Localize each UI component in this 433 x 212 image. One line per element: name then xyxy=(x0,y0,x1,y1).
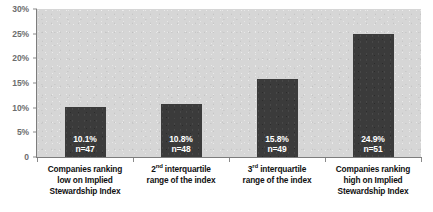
bar-value-label: 24.9% xyxy=(361,134,385,144)
y-axis-tick-label: 0 xyxy=(24,152,29,162)
x-axis-tick-mark xyxy=(421,158,422,162)
y-axis-tick-label: 15% xyxy=(12,78,29,88)
x-axis-category-labels: Companies rankinglow on ImpliedStewardsh… xyxy=(37,164,421,198)
x-axis-tick-mark xyxy=(133,158,134,162)
x-axis-tick-mark xyxy=(229,158,230,162)
bar-slot: 24.9%n=51 xyxy=(325,9,421,157)
y-axis-tick-label: 25% xyxy=(12,29,29,39)
bar-slot: 15.8%n=49 xyxy=(229,9,325,157)
x-axis-category-label: Companies rankinghigh on ImpliedStewards… xyxy=(325,164,421,198)
bar-chart: 05%10%15%20%25%30% 10.1%n=4710.8%n=4815.… xyxy=(0,0,433,212)
bar-sample-size-label: n=49 xyxy=(267,144,286,154)
bar[interactable]: 24.9%n=51 xyxy=(353,34,394,157)
bars-layer: 10.1%n=4710.8%n=4815.8%n=4924.9%n=51 xyxy=(37,9,421,157)
bar[interactable]: 10.8%n=48 xyxy=(161,104,202,157)
bar-sample-size-label: n=47 xyxy=(75,144,94,154)
x-axis-category-label: Companies rankinglow on ImpliedStewardsh… xyxy=(37,164,133,198)
x-axis-tick-mark xyxy=(37,158,38,162)
bar-slot: 10.8%n=48 xyxy=(133,9,229,157)
bar-sample-size-label: n=48 xyxy=(171,144,190,154)
bar[interactable]: 10.1%n=47 xyxy=(65,107,106,157)
y-axis-tick-label: 5% xyxy=(17,127,29,137)
bar-value-label: 10.1% xyxy=(73,134,97,144)
y-axis: 05%10%15%20%25%30% xyxy=(0,0,33,160)
y-axis-tick-label: 30% xyxy=(12,4,29,14)
bar-slot: 10.1%n=47 xyxy=(37,9,133,157)
x-axis-tick-mark xyxy=(325,158,326,162)
y-axis-tick-label: 10% xyxy=(12,103,29,113)
bar-sample-size-label: n=51 xyxy=(363,144,382,154)
x-axis-ticks xyxy=(36,158,422,162)
bar[interactable]: 15.8%n=49 xyxy=(257,79,298,157)
y-axis-tick-label: 20% xyxy=(12,53,29,63)
x-axis-category-label: 2nd interquartilerange of the index xyxy=(133,164,229,198)
plot-area: 10.1%n=4710.8%n=4815.8%n=4924.9%n=51 xyxy=(37,9,421,157)
bar-value-label: 10.8% xyxy=(169,134,193,144)
bar-value-label: 15.8% xyxy=(265,134,289,144)
x-axis-category-label: 3rd interquartilerange of the index xyxy=(229,164,325,198)
